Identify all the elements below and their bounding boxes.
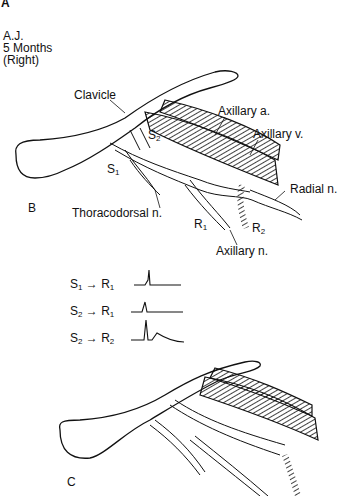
trace-label-s1-r1: S1 → R1 bbox=[70, 277, 114, 292]
trace-label-s2-r2: S2 → R2 bbox=[70, 331, 114, 346]
trace-s2-r1 bbox=[131, 302, 183, 312]
label-thoracodorsal-nerve: Thoracodorsal n. bbox=[72, 207, 162, 220]
label-s1: S1 bbox=[107, 163, 119, 179]
label-axillary-vein: Axillary v. bbox=[253, 128, 303, 141]
evoked-traces bbox=[131, 270, 184, 342]
axillary-vessels-c bbox=[200, 368, 318, 440]
panel-c-letter: C bbox=[67, 475, 76, 489]
label-radial-nerve: Radial n. bbox=[290, 183, 337, 196]
trace-s2-r2 bbox=[131, 320, 184, 342]
label-r1: R1 bbox=[194, 218, 207, 234]
label-axillary-artery: Axillary a. bbox=[218, 105, 270, 118]
trace-s1-r1 bbox=[134, 270, 181, 285]
label-axillary-nerve: Axillary n. bbox=[216, 245, 268, 258]
label-r2: R2 bbox=[252, 222, 265, 238]
anatomy-illustration bbox=[0, 0, 345, 496]
trace-label-s2-r1: S2 → R1 bbox=[70, 304, 114, 319]
panel-b-letter: B bbox=[28, 201, 36, 215]
label-s2: S2 bbox=[148, 129, 160, 145]
label-clavicle: Clavicle bbox=[74, 89, 116, 102]
vessel-descending-c bbox=[285, 455, 298, 496]
